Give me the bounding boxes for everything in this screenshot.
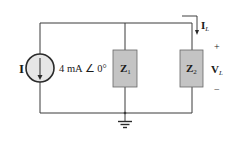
- junction-dot: [124, 112, 127, 115]
- arrow-down-icon: [195, 30, 199, 35]
- load-voltage-label: VL: [211, 63, 223, 77]
- current-source: [26, 54, 54, 82]
- circuit-diagram: I 4 mA ∠ 0° Z1 Z2 IL + VL −: [0, 0, 237, 144]
- source-symbol: I: [19, 61, 24, 76]
- minus-sign: −: [214, 84, 220, 95]
- load-current-label: IL: [201, 19, 209, 33]
- ground-icon: [118, 122, 132, 128]
- source-value: 4 mA ∠ 0°: [59, 63, 107, 74]
- plus-sign: +: [214, 41, 220, 52]
